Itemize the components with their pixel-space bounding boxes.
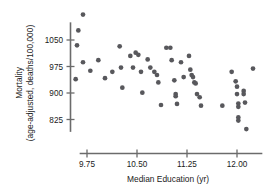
y-axis-title-line1: Mortality: [14, 66, 24, 98]
data-point: [75, 43, 80, 48]
data-point: [110, 69, 115, 74]
data-point: [251, 66, 256, 71]
data-point: [229, 69, 234, 74]
x-tick-label-11.25: 11.25: [177, 160, 197, 169]
data-point: [88, 68, 93, 73]
data-point: [120, 85, 125, 90]
data-point: [117, 44, 122, 49]
axes-group: [67, 22, 263, 157]
data-point: [131, 65, 136, 70]
data-point: [175, 102, 180, 107]
x-tick-label-12.00: 12.00: [227, 160, 248, 169]
data-point: [81, 60, 86, 65]
data-point: [233, 79, 238, 84]
data-point: [187, 54, 192, 59]
data-point: [139, 69, 144, 74]
data-point: [188, 67, 193, 72]
data-point: [155, 73, 160, 78]
x-axis-title: Median Education (yr): [127, 174, 209, 184]
data-point: [236, 118, 241, 123]
y-tick-label-975: 975: [49, 63, 63, 72]
data-point: [197, 95, 202, 100]
data-point: [169, 58, 174, 63]
data-point: [76, 28, 81, 33]
data-point: [243, 100, 248, 105]
x-tick-label-10.50: 10.50: [127, 160, 148, 169]
data-point: [136, 52, 141, 57]
data-point: [168, 45, 173, 50]
data-point: [164, 45, 169, 50]
data-point: [181, 75, 186, 80]
data-point: [145, 57, 150, 62]
y-tick-label-900: 900: [49, 89, 63, 98]
data-point: [148, 65, 153, 70]
y-tick-label-1050: 1050: [45, 36, 64, 45]
data-point: [179, 60, 184, 65]
data-point: [193, 81, 198, 86]
data-point: [81, 12, 86, 17]
data-point: [159, 103, 164, 108]
data-point: [199, 103, 204, 108]
data-point: [140, 90, 145, 95]
data-point: [220, 103, 225, 108]
scatter-plot-figure: 10509759008259.7510.5011.2512.00Median E…: [0, 0, 270, 190]
data-point: [156, 80, 161, 85]
data-point: [241, 92, 246, 97]
data-point: [119, 65, 124, 70]
data-point: [235, 92, 240, 97]
x-tick-label-9.75: 9.75: [79, 160, 95, 169]
data-point: [128, 54, 133, 59]
data-point: [191, 75, 196, 80]
data-point: [96, 58, 101, 63]
data-point: [173, 94, 178, 99]
data-point: [103, 76, 108, 81]
y-axis-title-line2: (age-adjusted, deaths/100,000): [25, 25, 35, 142]
axis-labels-group: 10509759008259.7510.5011.2512.00Median E…: [14, 25, 248, 184]
data-point: [73, 77, 78, 82]
data-point: [236, 104, 241, 109]
data-points-group: [73, 12, 255, 131]
data-point: [172, 78, 177, 83]
data-point: [235, 84, 240, 89]
y-tick-label-825: 825: [49, 116, 63, 125]
data-point: [244, 127, 249, 132]
plot-canvas: 10509759008259.7510.5011.2512.00Median E…: [0, 0, 270, 190]
